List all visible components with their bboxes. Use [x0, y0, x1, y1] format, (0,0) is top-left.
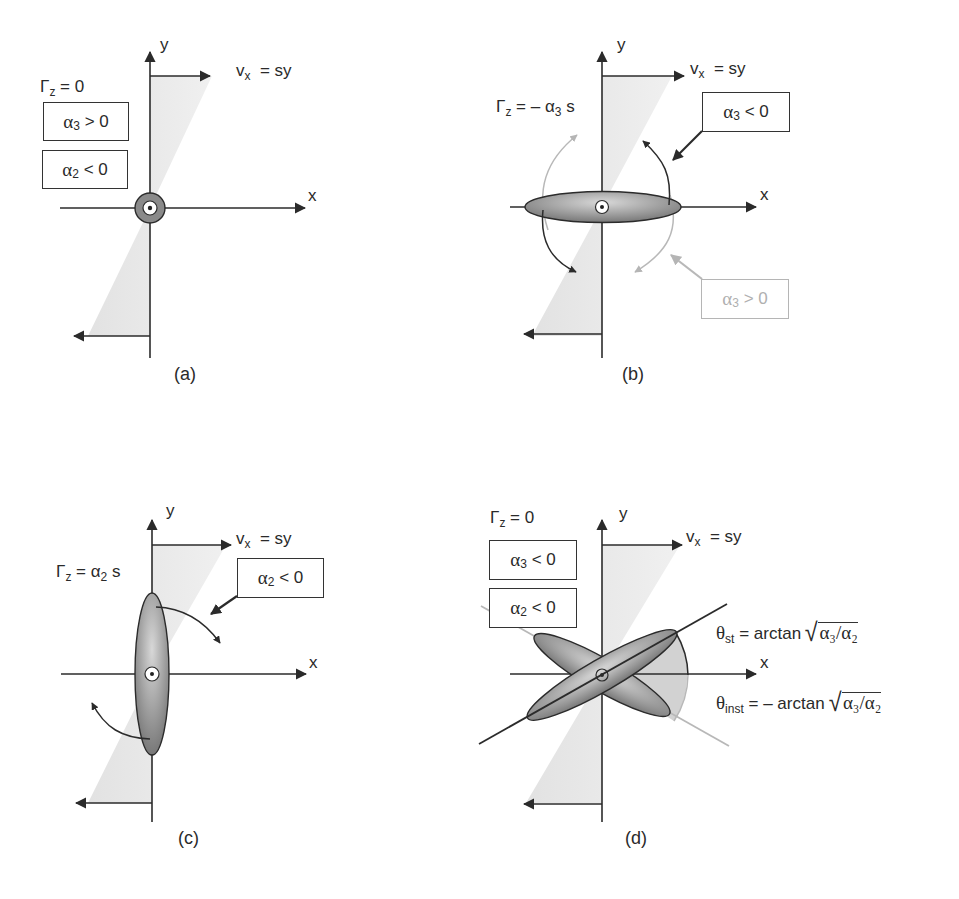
callout-arrow — [211, 596, 237, 614]
theta-stable-label: θst = arctan√α₃/α₂ — [716, 617, 858, 643]
panel-a — [60, 52, 305, 358]
y-axis-label: y — [619, 505, 628, 522]
condition-box-alpha3: α3 < 0 — [489, 540, 577, 580]
circulation-label: Γz = α2 s — [56, 563, 121, 580]
callout-arrow-dark — [673, 131, 702, 160]
y-axis-label: y — [160, 36, 169, 53]
y-axis-label: y — [166, 502, 175, 519]
circulation-label: Γz = – α3 s — [496, 98, 575, 115]
circulation-label: Γz = 0 — [40, 78, 84, 95]
condition-box-alpha3: α3 > 0 — [43, 102, 129, 141]
condition-box-alpha3-positive: α3 > 0 — [701, 279, 789, 319]
velocity-label: vx = sy — [686, 528, 742, 545]
velocity-label: vx = sy — [236, 530, 292, 547]
theta-instability-label: θinst = – arctan√α₃/α₂ — [716, 687, 881, 713]
condition-box-alpha2: α2 < 0 — [489, 588, 577, 628]
x-axis-label: x — [309, 654, 318, 671]
x-axis-label: x — [760, 654, 769, 671]
caption-b: (b) — [622, 364, 644, 385]
x-axis-label: x — [760, 186, 769, 203]
caption-c: (c) — [178, 828, 199, 849]
condition-box-alpha2: α2 < 0 — [42, 150, 128, 189]
condition-box-alpha2: α2 < 0 — [237, 558, 324, 598]
x-axis-label: x — [308, 187, 317, 204]
velocity-label: vx = sy — [236, 62, 292, 79]
circulation-label: Γz = 0 — [490, 509, 534, 526]
y-axis-label: y — [617, 36, 626, 53]
caption-d: (d) — [625, 828, 647, 849]
caption-a: (a) — [174, 364, 196, 385]
figure-canvas — [0, 0, 959, 899]
condition-box-alpha3-negative: α3 < 0 — [702, 92, 790, 132]
velocity-label: vx = sy — [690, 60, 746, 77]
callout-arrow-faint — [671, 255, 702, 279]
